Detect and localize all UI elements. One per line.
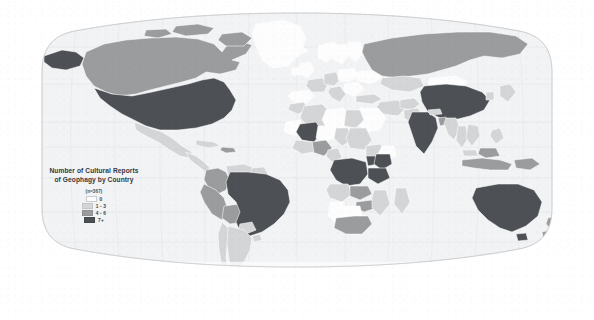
- region-antarctica: [42, 262, 552, 270]
- legend-item-0: 0: [86, 196, 103, 201]
- country-nepal: [428, 109, 442, 115]
- legend-class-list: 0 1 - 3 4 - 6 7+: [33, 196, 155, 222]
- legend-swatch-icon-1: [82, 203, 93, 209]
- geophagy-world-map-figure: Number of Cultural Reports of Geophagy b…: [0, 0, 594, 320]
- map-canvas: [0, 0, 594, 320]
- legend-label-3: 7+: [98, 218, 104, 223]
- legend-label-1: 1 - 3: [96, 204, 106, 209]
- country-ireland: [292, 67, 300, 75]
- legend-item-1: 1 - 3: [82, 203, 106, 208]
- legend-label-2: 4 - 6: [96, 211, 106, 216]
- map-legend: Number of Cultural Reports of Geophagy b…: [33, 166, 155, 223]
- country-malaysia: [462, 150, 478, 156]
- legend-swatch-icon-3: [84, 217, 95, 223]
- world-map-svg: [0, 0, 594, 320]
- legend-swatch-icon-2: [82, 210, 93, 216]
- country-korea: [486, 92, 494, 100]
- legend-label-0: 0: [100, 197, 103, 202]
- country-tasmania: [516, 233, 528, 241]
- legend-item-2: 4 - 6: [82, 210, 106, 215]
- legend-title: Number of Cultural Reports of Geophagy b…: [33, 166, 155, 184]
- legend-sample-size: (n=367): [33, 189, 155, 194]
- legend-swatch-icon-0: [86, 196, 97, 202]
- legend-title-line-2: of Geophagy by Country: [54, 176, 133, 183]
- legend-title-line-1: Number of Cultural Reports: [49, 167, 138, 174]
- legend-item-3: 7+: [84, 217, 104, 222]
